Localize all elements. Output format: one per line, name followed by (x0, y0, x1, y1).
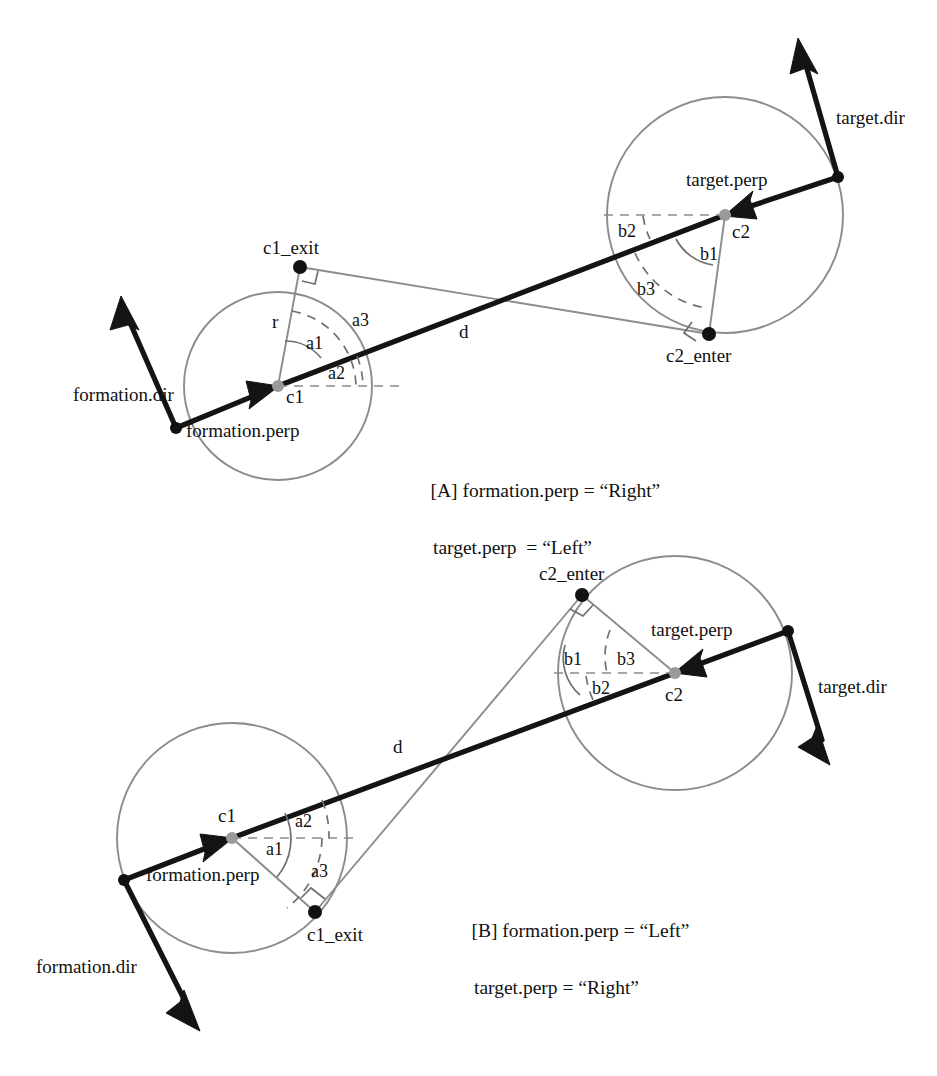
panel-b-target-dir-vector (788, 631, 822, 740)
panel-b-label-b3: b3 (617, 650, 635, 669)
panel-b-tangent-line (315, 595, 582, 912)
panel-b-label-formation-perp: formation.perp (146, 865, 259, 885)
panel-b-label-b2: b2 (592, 679, 610, 698)
panel-a-label-formation-dir: formation.dir (73, 385, 174, 405)
panel-a-target-dir-vector (805, 62, 838, 177)
panel-b-label-target-perp: target.perp (651, 620, 732, 640)
panel-b-label-a2: a2 (295, 812, 312, 831)
panel-a-radius-c2 (709, 215, 725, 334)
panel-b-label-distance-d: d (393, 737, 403, 757)
panel-a-right-angle-c1-exit (302, 271, 318, 284)
panel-a-caption: [A] formation.perp = “Right” target.perp… (411, 449, 660, 619)
panel-b-caption-line1: [B] formation.perp = “Left” (472, 920, 690, 941)
panel-b-formation-dir-arrowhead (166, 990, 200, 1031)
panel-a-label-a3: a3 (352, 311, 369, 330)
panel-a-graphics (110, 38, 844, 480)
panel-a-label-c2-enter: c2_enter (666, 346, 731, 366)
panel-a-caption-line2: target.perp = “Left” (411, 534, 660, 562)
panel-b-label-formation-dir: formation.dir (36, 957, 137, 977)
panel-a-label-a1: a1 (306, 334, 323, 353)
panel-a-formation-dir-arrowhead (110, 296, 139, 330)
panel-a-c2-enter-dot (702, 327, 716, 341)
panel-a-label-c1-exit: c1_exit (263, 238, 319, 258)
panel-b-target-dir-arrowhead (798, 726, 830, 765)
panel-b-label-c2-enter: c2_enter (539, 564, 604, 584)
panel-a-label-a2: a2 (328, 364, 345, 383)
figure-root: formation.dir formation.perp target.dir … (0, 0, 937, 1076)
panel-a-label-radius-r: r (272, 312, 278, 332)
panel-a-label-c2: c2 (732, 222, 750, 242)
panel-a-label-b2: b2 (618, 222, 636, 241)
panel-a-label-b1: b1 (700, 245, 718, 264)
panel-a-label-target-dir: target.dir (836, 108, 905, 128)
panel-a-arc-b2 (643, 216, 650, 239)
panel-b-label-b1: b1 (564, 650, 582, 669)
panel-b-formation-dir-vector (124, 880, 187, 1005)
panel-a-c1-exit-dot (293, 260, 307, 274)
panel-a-label-distance-d: d (459, 322, 469, 342)
panel-b-formation-vertex-dot (118, 874, 130, 886)
panel-b-arc-b3 (605, 630, 610, 673)
panel-a-label-c1: c1 (286, 387, 304, 407)
panel-b-label-a1: a1 (266, 840, 283, 859)
panel-a-target-dir-arrowhead (790, 38, 818, 74)
panel-a-formation-dir-vector (128, 318, 176, 428)
panel-b-label-c2: c2 (665, 685, 683, 705)
panel-b-caption-line2: target.perp = “Right” (452, 974, 689, 1002)
panel-b-label-target-dir: target.dir (818, 677, 887, 697)
panel-a-label-target-perp: target.perp (686, 170, 767, 190)
panel-b-label-c1-exit: c1_exit (307, 925, 363, 945)
panel-b-c1-exit-dot (308, 905, 322, 919)
panel-a-caption-line1: [A] formation.perp = “Right” (431, 480, 661, 501)
panel-b-caption: [B] formation.perp = “Left” target.perp … (452, 889, 689, 1059)
panel-a-formation-vertex-dot (170, 422, 182, 434)
panel-a-c1-center-dot (272, 380, 284, 392)
panel-a-center-line-d (278, 215, 725, 386)
panel-a-target-vertex-dot (832, 171, 844, 183)
panel-a-c2-center-dot (719, 209, 731, 221)
panel-b-c2-center-dot (669, 667, 681, 679)
panel-a-label-formation-perp: formation.perp (186, 421, 299, 441)
panel-b-label-c1: c1 (218, 806, 236, 826)
panel-a-arc-a2 (357, 356, 363, 386)
panel-a-radius-c1 (278, 267, 300, 386)
panel-a-label-b3: b3 (637, 280, 655, 299)
panel-b-target-vertex-dot (782, 625, 794, 637)
panel-b-label-a3: a3 (311, 862, 328, 881)
panel-b-c1-center-dot (226, 832, 238, 844)
